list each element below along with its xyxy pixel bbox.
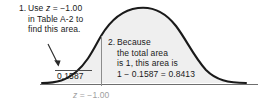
annotation-2-text: Because the total area is 1, this area i… — [117, 37, 195, 79]
annotation-1-line-1-post: = −1.00 — [50, 3, 82, 13]
axis-cutoff-label: z = −1.00 — [73, 90, 109, 100]
annotation-1-line-1: Use z = −1.00 — [28, 3, 83, 14]
annotation-2-line-1: Because — [117, 37, 195, 48]
annotation-2-number: 2. — [108, 37, 115, 48]
annotation-1-number: 1. — [19, 3, 26, 14]
annotation-1-line-3: find this area. — [28, 24, 83, 35]
annotation-step-2: 2. Because the total area is 1, this are… — [108, 37, 195, 79]
annotation-2-line-2: the total area — [117, 48, 195, 59]
axis-label-value: = −1.00 — [77, 90, 109, 100]
annotation-2-line-3: is 1, this area is — [117, 58, 195, 69]
annotation-step-1: 1. Use z = −1.00 in Table A-2 to find th… — [19, 3, 83, 35]
annotation-1-line-2: in Table A-2 to — [28, 14, 83, 25]
annotation-1-line-1-pre: Use — [28, 3, 46, 13]
left-tail-area-value: 0.1587 — [57, 71, 84, 81]
leader-arrow-head — [54, 60, 60, 66]
normal-distribution-figure: 1. Use z = −1.00 in Table A-2 to find th… — [0, 0, 262, 107]
annotation-1-text: Use z = −1.00 in Table A-2 to find this … — [28, 3, 83, 35]
annotation-2-line-4: 1 − 0.1587 = 0.8413 — [117, 69, 195, 80]
